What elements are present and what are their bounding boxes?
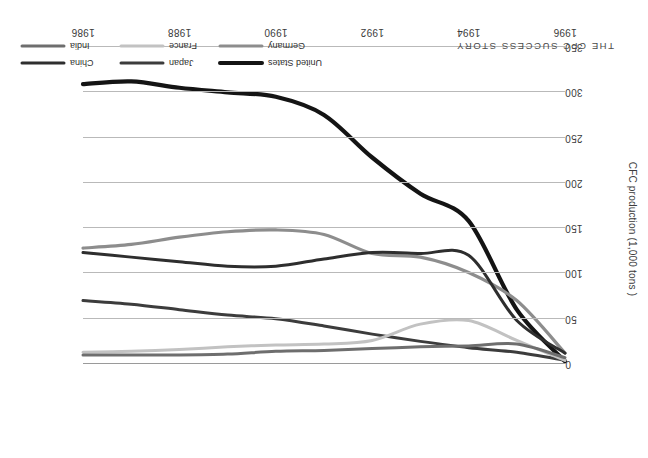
x-tick-label: 1996 [553,27,576,38]
legend-label: Germany [268,42,305,52]
chart-figure: 050100150200250300350 198619881990199219… [0,0,648,458]
legend-swatch [220,60,262,68]
gridline-300 [83,91,565,92]
y-tick-label: 150 [565,223,583,234]
chart-title: THE CFC SUCCESS STORY [456,41,614,52]
chart-legend: United StatesGermanyJapanFranceChinaIndi… [22,38,322,72]
legend-label: Japan [169,59,194,69]
legend-swatch [121,60,163,68]
legend-swatch [121,43,163,51]
legend-item-china[interactable]: China [22,55,117,72]
legend-item-united-states[interactable]: United States [220,55,322,72]
legend-item-japan[interactable]: Japan [121,55,216,72]
y-axis-title: CFC production (1,000 tons ) [627,162,638,297]
gridline-200 [83,182,565,183]
plot-area: 050100150200250300350 198619881990199219… [83,47,565,364]
gridline-100 [83,272,565,273]
y-tick-label: 200 [565,177,583,188]
y-tick-label: 250 [565,132,583,143]
y-tick-label: 0 [565,359,571,370]
legend-swatch [220,43,262,51]
series-lines [83,47,565,364]
x-tick-label: 1986 [71,27,94,38]
legend-label: United States [268,59,322,69]
legend-item-germany[interactable]: Germany [220,38,322,55]
y-tick-label: 100 [565,268,583,279]
series-line-united-states [83,81,565,361]
gridline-250 [83,137,565,138]
legend-swatch [22,60,64,68]
gridline-0 [83,363,565,364]
legend-label: China [70,59,94,69]
series-line-germany [83,230,565,353]
y-tick-label: 300 [565,87,583,98]
legend-item-india[interactable]: India [22,38,117,55]
legend-label: India [70,42,90,52]
gridline-150 [83,227,565,228]
legend-label: France [169,42,197,52]
legend-item-france[interactable]: France [121,38,216,55]
x-tick-label: 1992 [360,27,383,38]
y-tick-label: 50 [565,313,577,324]
x-tick-label: 1988 [168,27,191,38]
x-tick-label: 1990 [264,27,287,38]
x-tick-label: 1994 [457,27,480,38]
legend-swatch [22,43,64,51]
gridline-50 [83,318,565,319]
